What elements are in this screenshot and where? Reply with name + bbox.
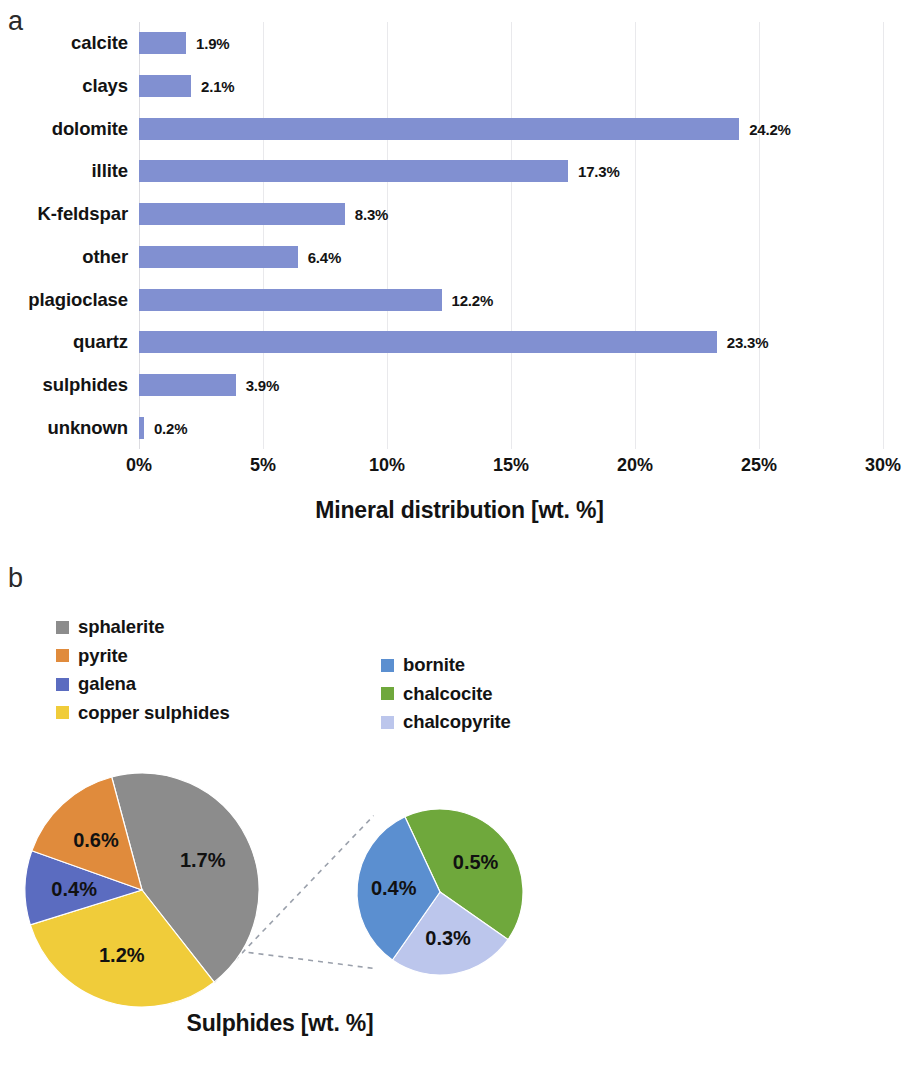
bar-row: unknown0.2% (139, 406, 883, 449)
bar-rect (139, 331, 717, 353)
legend-column-right: bornitechalcocitechalcopyrite (381, 651, 511, 737)
bar-category-label: calcite (71, 32, 128, 54)
legend-label: galena (78, 673, 136, 695)
x-axis-tick-label: 25% (741, 455, 777, 476)
bar-rect (139, 118, 739, 140)
bar-category-label: other (82, 246, 128, 268)
bar-row: dolomite24.2% (139, 107, 883, 150)
bar-category-label: quartz (73, 331, 128, 353)
legend-item: copper sulphides (56, 699, 230, 728)
bar-rect (139, 289, 442, 311)
bar-rect (139, 160, 568, 182)
sulphides-main-pie: 1.7%1.2%0.4%0.6% (25, 773, 259, 1007)
legend-swatch-icon (56, 621, 69, 634)
legend-swatch-icon (56, 706, 69, 719)
pie-slice-value-label: 0.4% (51, 878, 97, 900)
legend-item: sphalerite (56, 613, 230, 642)
pie-slice-value-label: 0.4% (371, 877, 417, 899)
bar-value-label: 12.2% (452, 291, 494, 308)
bar-value-label: 0.2% (154, 419, 187, 436)
bar-value-label: 24.2% (749, 120, 791, 137)
legend-item: pyrite (56, 642, 230, 671)
pie-slice-value-label: 0.3% (425, 927, 471, 949)
bar-row: plagioclase12.2% (139, 278, 883, 321)
legend-item: galena (56, 670, 230, 699)
bar-rect (139, 75, 191, 97)
bar-chart-title: Mineral distribution [wt. %] (0, 497, 919, 524)
legend-label: copper sulphides (78, 702, 230, 724)
bar-rect (139, 417, 144, 439)
x-axis-tick-label: 30% (865, 455, 901, 476)
copper-sulphides-breakout-pie: 0.5%0.3%0.4% (357, 809, 523, 975)
legend-label: chalcocite (403, 683, 493, 705)
bar-x-axis: 0%5%10%15%20%25%30% (139, 455, 883, 481)
legend-label: bornite (403, 654, 465, 676)
pie-chart-title: Sulphides [wt. %] (0, 1010, 560, 1037)
legend-swatch-icon (56, 649, 69, 662)
bar-rect (139, 374, 236, 396)
legend-column-left: sphaleritepyritegalenacopper sulphides (56, 613, 230, 727)
bar-rect (139, 203, 345, 225)
legend-swatch-icon (381, 659, 394, 672)
bar-rect (139, 246, 298, 268)
legend-item: chalcopyrite (381, 708, 511, 737)
bar-plot-area: calcite1.9%clays2.1%dolomite24.2%illite1… (139, 22, 883, 449)
legend-swatch-icon (381, 716, 394, 729)
legend-swatch-icon (381, 687, 394, 700)
bar-row: illite17.3% (139, 150, 883, 193)
x-axis-tick-label: 5% (250, 455, 276, 476)
legend-item: chalcocite (381, 680, 511, 709)
bar-category-label: K-feldspar (38, 203, 129, 225)
bar-rect (139, 32, 186, 54)
legend-label: pyrite (78, 645, 128, 667)
bar-value-label: 23.3% (727, 334, 769, 351)
pie-slice-value-label: 1.7% (180, 849, 226, 871)
x-axis-tick-label: 20% (617, 455, 653, 476)
bar-value-label: 8.3% (355, 206, 388, 223)
legend-label: chalcopyrite (403, 711, 511, 733)
bar-value-label: 1.9% (196, 35, 229, 52)
bar-category-label: unknown (48, 417, 128, 439)
bar-value-label: 6.4% (308, 248, 341, 265)
legend-label: sphalerite (78, 616, 164, 638)
legend-swatch-icon (56, 678, 69, 691)
x-axis-tick-label: 15% (493, 455, 529, 476)
mineral-distribution-bar-chart: calcite1.9%clays2.1%dolomite24.2%illite1… (0, 0, 919, 545)
bar-value-label: 2.1% (201, 78, 234, 95)
bar-category-label: illite (92, 160, 128, 182)
pie-slice-value-label: 0.6% (73, 829, 119, 851)
bar-row: K-feldspar8.3% (139, 193, 883, 236)
bar-row: clays2.1% (139, 65, 883, 108)
bar-value-label: 17.3% (578, 163, 620, 180)
bar-row: calcite1.9% (139, 22, 883, 65)
x-axis-tick-label: 10% (369, 455, 405, 476)
pie-slice-value-label: 1.2% (99, 944, 145, 966)
bar-category-label: clays (82, 75, 128, 97)
bar-category-label: sulphides (43, 374, 128, 396)
bar-value-label: 3.9% (246, 376, 279, 393)
bar-category-label: plagioclase (28, 289, 128, 311)
x-axis-tick-label: 0% (126, 455, 152, 476)
bar-row: quartz23.3% (139, 321, 883, 364)
sulphides-pie-section: 1.7%1.2%0.4%0.6%0.5%0.3%0.4% sphaleritep… (0, 555, 919, 1077)
gridline-30% (883, 22, 884, 449)
bar-row: sulphides3.9% (139, 364, 883, 407)
bar-row: other6.4% (139, 236, 883, 279)
pie-slice-value-label: 0.5% (453, 851, 499, 873)
legend-item: bornite (381, 651, 511, 680)
bar-category-label: dolomite (52, 118, 128, 140)
